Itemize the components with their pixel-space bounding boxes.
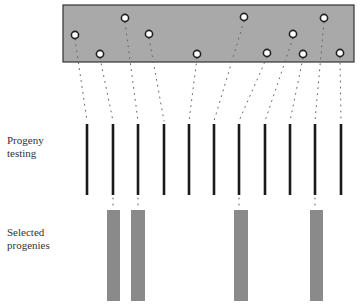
selected-progeny-bar bbox=[234, 210, 248, 301]
individual-circle bbox=[96, 50, 103, 57]
individual-circle bbox=[240, 13, 247, 20]
individual-circle bbox=[121, 14, 128, 21]
individual-circle bbox=[299, 50, 306, 57]
progeny-testing-label-line2: testing bbox=[7, 147, 44, 160]
selected-progenies-label-line2: progenies bbox=[7, 239, 50, 252]
individual-circle bbox=[71, 31, 78, 38]
dotted-link bbox=[239, 57, 267, 121]
individual-circle bbox=[193, 50, 200, 57]
dotted-link bbox=[100, 58, 113, 121]
dotted-link bbox=[290, 58, 303, 121]
selected-progeny-bar bbox=[310, 210, 323, 301]
individual-circle bbox=[289, 30, 296, 37]
selected-progeny-bar bbox=[107, 210, 120, 301]
progeny-testing-label-line1: Progeny bbox=[7, 134, 44, 147]
individual-circle bbox=[145, 30, 152, 37]
dotted-link bbox=[189, 58, 197, 121]
individual-circle bbox=[336, 49, 343, 56]
individual-circle bbox=[263, 49, 270, 56]
selected-progeny-bar bbox=[131, 210, 145, 301]
progeny-test-lines bbox=[87, 124, 341, 195]
selection-dotted-connections bbox=[113, 198, 315, 208]
selected-progenies-label: Selected progenies bbox=[7, 226, 50, 252]
selected-progenies-label-line1: Selected bbox=[7, 226, 50, 239]
population-box bbox=[63, 5, 354, 62]
progeny-testing-label: Progeny testing bbox=[7, 134, 44, 160]
individual-circle bbox=[320, 14, 327, 21]
progeny-selection-diagram bbox=[0, 0, 363, 308]
dotted-link bbox=[340, 57, 341, 121]
selected-progeny-bars bbox=[107, 210, 323, 301]
